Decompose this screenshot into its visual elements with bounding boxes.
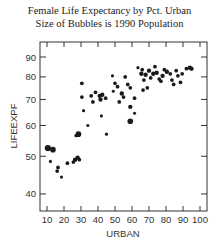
bubble bbox=[139, 72, 143, 76]
bubble bbox=[176, 74, 180, 78]
bubble bbox=[82, 109, 85, 112]
x-axis: 102030405060708090100 bbox=[42, 42, 208, 225]
bubble bbox=[50, 147, 56, 153]
y-tick-label: 60 bbox=[25, 120, 36, 131]
bubble bbox=[127, 118, 133, 124]
bubble bbox=[94, 90, 98, 94]
bubble bbox=[66, 161, 70, 165]
bubble bbox=[91, 100, 95, 104]
bubble bbox=[133, 96, 137, 100]
bubble bbox=[105, 133, 108, 136]
bubble bbox=[172, 83, 176, 87]
bubble bbox=[122, 95, 126, 99]
scatter-plot: 102030405060708090100 405060708090 URBAN… bbox=[0, 0, 219, 242]
x-tick-label: 70 bbox=[144, 214, 155, 225]
bubble bbox=[120, 91, 124, 95]
x-tick-label: 60 bbox=[127, 214, 138, 225]
bubble bbox=[113, 81, 117, 85]
bubble bbox=[147, 68, 151, 72]
x-tick-label: 10 bbox=[42, 214, 53, 225]
bubble bbox=[145, 86, 149, 90]
bubble bbox=[60, 176, 63, 179]
bubble bbox=[56, 166, 60, 170]
x-tick-label: 50 bbox=[110, 214, 121, 225]
bubble bbox=[136, 66, 139, 69]
bubble bbox=[140, 68, 144, 72]
bubble bbox=[170, 78, 174, 82]
bubble bbox=[123, 75, 127, 79]
bubble bbox=[45, 145, 51, 151]
y-tick-label: 40 bbox=[25, 188, 36, 199]
bubble bbox=[180, 72, 184, 76]
bubble bbox=[174, 69, 178, 73]
bubble bbox=[160, 74, 164, 78]
data-points bbox=[45, 65, 194, 179]
bubble bbox=[126, 83, 130, 87]
bubble bbox=[77, 158, 81, 162]
bubble bbox=[117, 100, 121, 104]
bubble bbox=[133, 112, 136, 115]
plot-frame bbox=[40, 42, 207, 211]
bubble bbox=[112, 90, 115, 93]
bubble bbox=[100, 93, 104, 97]
x-axis-label: URBAN bbox=[106, 228, 139, 239]
x-tick-label: 90 bbox=[178, 214, 189, 225]
bubble bbox=[55, 169, 59, 173]
bubble bbox=[153, 65, 157, 69]
bubble bbox=[141, 88, 145, 92]
x-tick-label: 30 bbox=[76, 214, 87, 225]
bubble bbox=[168, 72, 172, 76]
bubble bbox=[86, 124, 89, 127]
y-tick-label: 90 bbox=[25, 52, 36, 63]
x-tick-label: 100 bbox=[192, 214, 208, 225]
bubble bbox=[111, 74, 114, 77]
x-tick-label: 20 bbox=[59, 214, 70, 225]
bubble bbox=[154, 71, 158, 75]
x-tick-label: 40 bbox=[93, 214, 104, 225]
bubble bbox=[128, 86, 132, 90]
bubble bbox=[80, 81, 84, 85]
y-tick-label: 50 bbox=[25, 151, 36, 162]
y-tick-label: 70 bbox=[25, 94, 36, 105]
bubble bbox=[98, 97, 102, 101]
y-axis-label: LIFEEXPF bbox=[8, 103, 19, 148]
y-axis: 405060708090 bbox=[25, 52, 207, 200]
bubble bbox=[89, 94, 93, 98]
bubble bbox=[100, 114, 103, 117]
bubble bbox=[80, 95, 84, 99]
bubble bbox=[76, 131, 82, 137]
bubble bbox=[143, 73, 147, 77]
bubble bbox=[116, 85, 120, 89]
bubble bbox=[165, 70, 169, 74]
bubble bbox=[104, 96, 108, 100]
bubble bbox=[128, 105, 132, 109]
x-tick-label: 80 bbox=[161, 214, 172, 225]
bubble bbox=[159, 79, 163, 83]
bubble bbox=[189, 66, 193, 70]
bubble bbox=[49, 160, 52, 163]
y-tick-label: 80 bbox=[25, 71, 36, 82]
bubble bbox=[149, 76, 153, 80]
bubble bbox=[179, 80, 183, 84]
bubble bbox=[142, 78, 146, 82]
